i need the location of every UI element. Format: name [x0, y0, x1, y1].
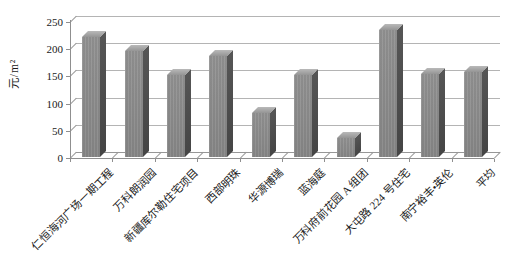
bar-side-face	[185, 69, 191, 157]
category-tick	[494, 159, 495, 162]
y-tick-label: 0	[33, 152, 63, 164]
category-label: 西部明珠	[203, 166, 243, 206]
category-tick	[240, 159, 241, 162]
category-tick	[197, 159, 198, 162]
bar-side-face	[312, 69, 318, 157]
bar	[82, 37, 100, 157]
bar	[464, 72, 482, 157]
bar-side-face	[482, 66, 488, 157]
bar	[337, 138, 355, 157]
bar-chart-figure: 元/m² 050100150200250仁恒海河广场一期工程万科朗润园新疆库尔勒…	[0, 0, 514, 266]
bar-side-face	[270, 107, 276, 157]
bar-front-face	[337, 138, 355, 157]
bar-side-face	[227, 50, 233, 157]
category-tick	[70, 159, 71, 162]
category-label: 万科府前花园 A 组团	[290, 166, 370, 246]
category-label: 新疆库尔勒住宅项目	[122, 166, 200, 244]
bar	[125, 51, 143, 157]
floor-right-edge	[494, 152, 501, 159]
bar-front-face	[82, 37, 100, 157]
bar-side-face	[143, 45, 149, 157]
y-tick-label: 200	[33, 43, 63, 55]
category-label: 仁恒海河广场一期工程	[29, 166, 115, 252]
category-label: 平均	[473, 166, 497, 190]
category-tick	[155, 159, 156, 162]
category-tick	[282, 159, 283, 162]
y-tick-label: 150	[33, 70, 63, 82]
bar-front-face	[125, 51, 143, 157]
bar-front-face	[209, 56, 227, 157]
bar-front-face	[167, 75, 185, 157]
bar-front-face	[294, 75, 312, 157]
bar-front-face	[464, 72, 482, 157]
category-tick	[452, 159, 453, 162]
y-tick-label: 250	[33, 16, 63, 28]
bar	[294, 75, 312, 157]
bar-front-face	[252, 113, 270, 157]
bar	[379, 30, 397, 157]
y-axis-title: 元/m²	[5, 34, 21, 114]
y-tick-label: 50	[33, 125, 63, 137]
bar-side-face	[100, 31, 106, 157]
category-label: 华源博瑞	[246, 166, 286, 206]
category-tick	[324, 159, 325, 162]
bar	[252, 113, 270, 157]
bar	[421, 74, 439, 157]
category-tick	[367, 159, 368, 162]
category-label: 蓝海庭	[296, 166, 328, 198]
category-tick	[112, 159, 113, 162]
bar-side-face	[397, 24, 403, 157]
bar	[209, 56, 227, 157]
category-tick	[409, 159, 410, 162]
gridline	[76, 16, 500, 17]
bar-side-face	[439, 68, 445, 157]
y-tick-label: 100	[33, 98, 63, 110]
y-axis-line	[70, 20, 71, 159]
bar	[167, 75, 185, 157]
bar-front-face	[379, 30, 397, 157]
bar-front-face	[421, 74, 439, 157]
